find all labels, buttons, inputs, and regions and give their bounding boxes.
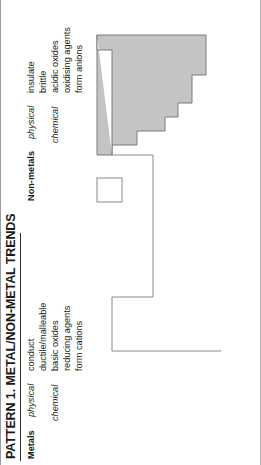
category-label-nonmetals-physical: physical [26,106,36,139]
page-title: PATTERN 1. METAL/NON-METAL TRENDS [4,213,18,459]
metals-chemical-property-form-cations: form cations [74,321,84,371]
category-label-nonmetals-chemical: chemical [50,107,60,143]
metals-physical-property-ductile-malleable: ductile/malleable [38,303,48,371]
category-label-metals-chemical: chemical [50,385,60,421]
nonmetals-physical-property-brittle: brittle [38,71,48,93]
title-underline [20,233,21,461]
nonmetals-chemical-property-form-anions: form anions [74,45,84,93]
category-label-metals-physical: physical [26,384,36,417]
nonmetals-chemical-property-acidic-oxides: acidic oxides [50,40,60,93]
nonmetals-physical-property-insulate: insulate [26,61,36,93]
hydrogen-box [97,178,122,202]
periodic-table-diagram [96,6,256,458]
group-label-nonmetals: Non-metals [26,151,36,201]
metals-chemical-property-reducing-agents: reducing agents [62,306,72,371]
group-label-metals: Metals [26,430,36,459]
nonmetals-chemical-property-oxidising-agents: oxidising agents [62,27,72,93]
metals-physical-property-conduct: conduct [26,339,36,371]
page-root: PATTERN 1. METAL/NON-METAL TRENDS Metals… [0,0,261,465]
nonmetals-region-shape [97,35,206,155]
metals-chemical-property-basic-oxides: basic oxides [50,320,60,371]
